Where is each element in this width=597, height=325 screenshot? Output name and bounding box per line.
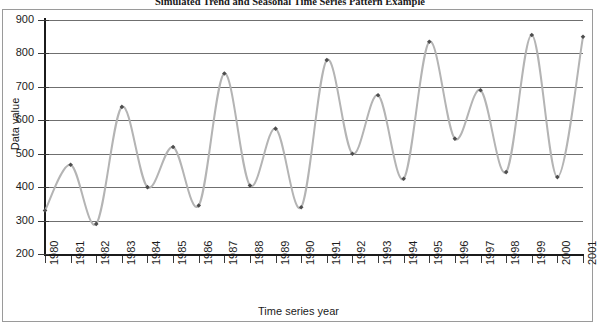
x-tick-mark [378,256,379,263]
x-tick-mark [583,256,584,263]
y-tick-label: 900 [0,14,34,25]
x-tick-label: 1998 [510,225,521,265]
y-tick-mark [38,221,49,222]
x-tick-mark [96,256,97,263]
chart-screenshot: Simulated Trend and Seasonal Time Series… [0,0,597,325]
y-tick-mark [38,53,49,54]
data-series-layer [0,0,597,325]
x-tick-mark [404,256,405,263]
y-tick-label: 700 [0,81,34,92]
x-tick-mark [250,256,251,263]
x-tick-label: 1984 [151,225,162,265]
y-tick-mark [38,20,49,21]
x-tick-label: 1980 [49,225,60,265]
x-tick-label: 1995 [433,225,444,265]
x-tick-label: 1993 [382,225,393,265]
x-tick-label: 1981 [75,225,86,265]
y-tick-label: 800 [0,47,34,58]
x-tick-label: 1994 [408,225,419,265]
x-tick-label: 2000 [561,225,572,265]
x-tick-label: 1997 [485,225,496,265]
x-tick-label: 1985 [177,225,188,265]
x-tick-mark [506,256,507,263]
x-tick-mark [276,256,277,263]
x-tick-mark [224,256,225,263]
x-tick-label: 1992 [356,225,367,265]
x-tick-mark [45,256,46,263]
series-line [45,35,583,225]
x-tick-label: 1996 [459,225,470,265]
x-tick-mark [147,256,148,263]
x-tick-mark [429,256,430,263]
y-tick-mark [38,187,49,188]
x-tick-mark [327,256,328,263]
x-tick-mark [301,256,302,263]
y-tick-label: 400 [0,181,34,192]
x-tick-label: 1999 [536,225,547,265]
x-tick-label: 1986 [203,225,214,265]
y-tick-mark [38,154,49,155]
y-tick-mark [38,87,49,88]
x-tick-label: 1990 [305,225,316,265]
x-tick-label: 2001 [587,225,597,265]
x-tick-mark [557,256,558,263]
x-tick-label: 1982 [100,225,111,265]
x-tick-mark [122,256,123,263]
y-tick-mark [38,120,49,121]
x-tick-label: 1983 [126,225,137,265]
y-tick-label: 300 [0,215,34,226]
x-tick-label: 1991 [331,225,342,265]
x-tick-mark [199,256,200,263]
x-tick-mark [173,256,174,263]
y-tick-label: 500 [0,148,34,159]
x-tick-label: 1987 [228,225,239,265]
x-tick-mark [481,256,482,263]
x-tick-label: 1989 [280,225,291,265]
x-tick-label: 1988 [254,225,265,265]
y-tick-label: 600 [0,114,34,125]
x-tick-mark [71,256,72,263]
x-tick-mark [532,256,533,263]
y-tick-label: 200 [0,248,34,259]
x-tick-mark [455,256,456,263]
data-point-marker [581,34,586,39]
x-tick-mark [352,256,353,263]
